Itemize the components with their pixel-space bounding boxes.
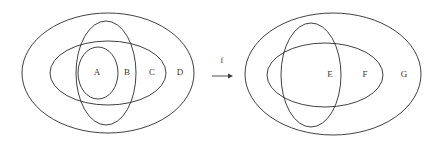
diagram-canvas: ABCDEFGf <box>0 0 443 147</box>
set-label-e: E <box>327 69 333 79</box>
outer-ellipse-g <box>245 13 421 135</box>
set-label-a: A <box>94 67 101 77</box>
set-mapping-figure: ABCDEFGf <box>0 0 443 147</box>
set-label-f: F <box>362 69 367 79</box>
set-label-d: D <box>177 67 184 77</box>
domain-venn-diagram: ABCD <box>22 13 194 133</box>
set-label-b: B <box>124 67 130 77</box>
set-label-c: C <box>149 67 155 77</box>
outer-ellipse-d <box>22 13 194 133</box>
function-arrow: f <box>212 55 233 78</box>
arrow-head-icon <box>228 74 233 79</box>
codomain-venn-diagram: EFG <box>245 13 421 135</box>
function-label-f: f <box>221 55 224 65</box>
set-label-g: G <box>401 69 408 79</box>
